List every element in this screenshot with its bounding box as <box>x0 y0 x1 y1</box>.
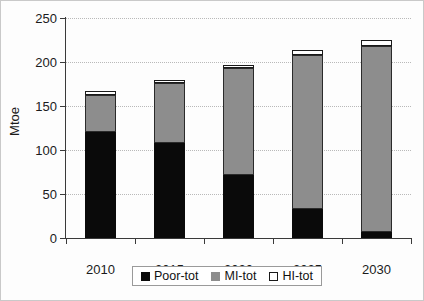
x-axis-tick <box>135 238 136 244</box>
y-axis-tick <box>60 194 66 195</box>
white-square-icon <box>269 272 278 281</box>
bar-segment-hi-tot <box>292 50 323 55</box>
legend-item[interactable]: MI-tot <box>211 269 256 283</box>
gridline <box>66 18 411 19</box>
chart-legend: Poor-totMI-totHI-tot <box>132 266 322 286</box>
legend-item[interactable]: Poor-tot <box>141 269 198 283</box>
bar-segment-mi-tot <box>154 83 185 143</box>
gray-square-icon <box>211 272 220 281</box>
x-axis-line <box>65 238 412 239</box>
x-axis-tick-label: 2010 <box>86 262 115 277</box>
bar-group <box>223 65 254 238</box>
bar-segment-poor-tot <box>361 232 392 238</box>
bar-group <box>154 80 185 238</box>
y-axis-tick-label: 200 <box>35 55 57 70</box>
bar-segment-mi-tot <box>292 55 323 209</box>
y-axis-title: Mtoe <box>3 1 25 241</box>
y-axis-title-label: Mtoe <box>7 107 22 136</box>
bar-segment-mi-tot <box>361 46 392 232</box>
gridline <box>66 62 411 63</box>
bar-segment-poor-tot <box>154 143 185 238</box>
x-axis-tick <box>273 238 274 244</box>
y-axis-tick-label: 150 <box>35 99 57 114</box>
bar-group <box>361 40 392 238</box>
y-axis-tick <box>60 106 66 107</box>
y-axis-tick-label: 50 <box>43 187 57 202</box>
bar-segment-poor-tot <box>223 175 254 238</box>
bar-segment-poor-tot <box>292 209 323 238</box>
plot-area: 050100150200250 20102015202020252030 <box>66 18 411 238</box>
legend-item-label: MI-tot <box>224 269 256 283</box>
x-axis-tick <box>411 238 412 244</box>
legend-item-label: HI-tot <box>282 269 313 283</box>
y-axis-tick-label: 100 <box>35 143 57 158</box>
x-axis-tick <box>204 238 205 244</box>
y-axis-tick-label: 250 <box>35 11 57 26</box>
x-axis-tick <box>342 238 343 244</box>
black-square-icon <box>141 272 150 281</box>
bar-segment-hi-tot <box>223 65 254 69</box>
y-axis-tick-label: 0 <box>50 231 57 246</box>
bar-segment-poor-tot <box>85 132 116 238</box>
bar-segment-mi-tot <box>85 95 116 133</box>
bar-segment-hi-tot <box>85 91 116 95</box>
y-axis-tick <box>60 62 66 63</box>
y-axis-tick <box>60 18 66 19</box>
legend-item-label: Poor-tot <box>154 269 198 283</box>
bar-segment-mi-tot <box>223 68 254 174</box>
y-axis-tick <box>60 150 66 151</box>
bar-group <box>292 50 323 238</box>
x-axis-tick <box>66 238 67 244</box>
bar-segment-hi-tot <box>154 80 185 84</box>
chart-figure: Mtoe 050100150200250 2010201520202025203… <box>0 0 424 301</box>
bar-group <box>85 91 116 238</box>
x-axis-tick-label: 2030 <box>362 262 391 277</box>
bar-segment-hi-tot <box>361 40 392 46</box>
legend-item[interactable]: HI-tot <box>269 269 313 283</box>
